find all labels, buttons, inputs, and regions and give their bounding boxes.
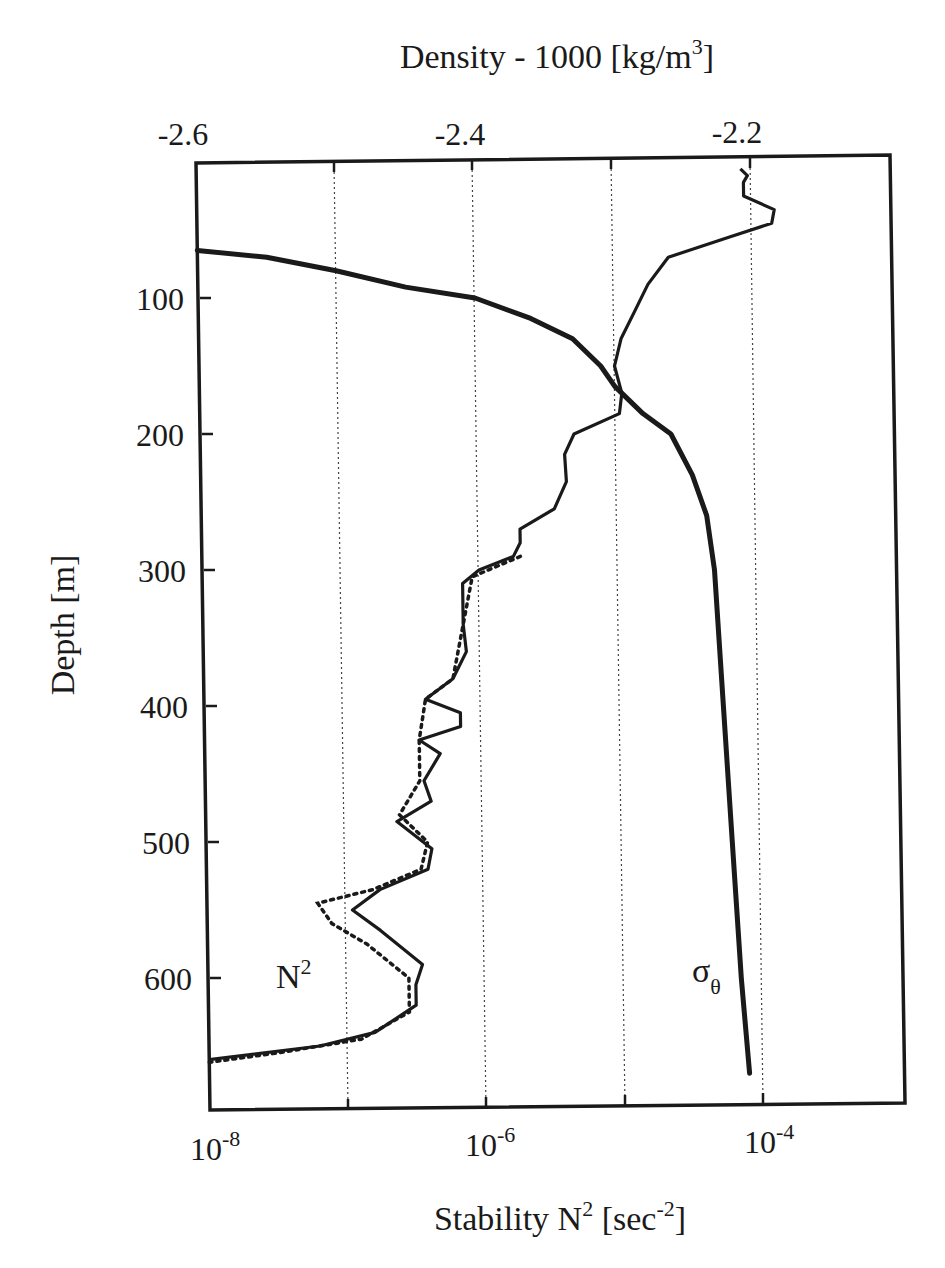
bottom-tick-label: 10-8 <box>190 1126 240 1167</box>
bottom-tick-label: 10-6 <box>465 1122 515 1163</box>
depth-tick-label: 400 <box>140 689 188 725</box>
top-tick-label: -2.4 <box>435 116 486 152</box>
depth-tick-label: 600 <box>144 961 192 997</box>
depth-tick-label: 100 <box>136 281 184 317</box>
bottom-tick-labels: 10-8 10-6 10-4 <box>190 1119 794 1167</box>
depth-tick-label: 300 <box>138 553 186 589</box>
bottom-tick-label: 10-4 <box>744 1119 794 1160</box>
sigma-theta-line <box>197 250 749 1073</box>
ocean-profile-chart: Density - 1000 [kg/m3] -2.6 -2.4 -2.2 <box>0 0 945 1268</box>
depth-tick-labels: 100 200 300 400 500 600 <box>136 281 192 997</box>
top-tick-label: -2.2 <box>712 114 763 150</box>
top-tick-labels: -2.6 -2.4 -2.2 <box>158 114 763 152</box>
sigma-theta-series-label: σθ <box>692 952 721 999</box>
depth-tick-label: 200 <box>136 417 184 453</box>
top-tick-label: -2.6 <box>158 116 209 152</box>
depth-tick-label: 500 <box>142 825 190 861</box>
n2-dotted-line <box>209 556 520 1062</box>
bottom-axis-title: Stability N2 [sec-2] <box>434 1196 686 1237</box>
n2-series-label: N2 <box>276 954 312 995</box>
top-axis-title: Density - 1000 [kg/m3] <box>400 34 714 75</box>
depth-axis-title: Depth [m] <box>44 555 81 696</box>
